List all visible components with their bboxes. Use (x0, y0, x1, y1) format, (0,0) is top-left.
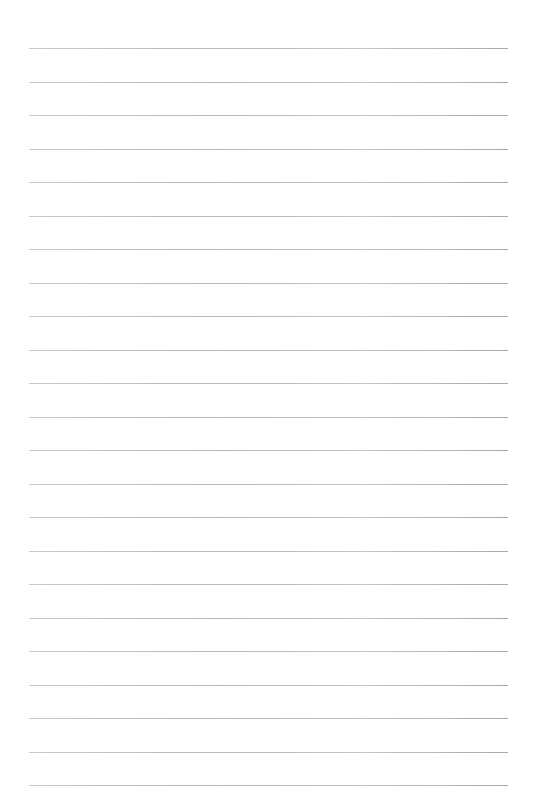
ruled-line (29, 584, 508, 585)
ruled-line (29, 216, 508, 217)
ruled-line (29, 383, 508, 384)
ruled-line (29, 182, 508, 183)
ruled-line (29, 752, 508, 753)
ruled-line (29, 417, 508, 418)
ruled-line (29, 350, 508, 351)
lined-paper-page (0, 0, 535, 802)
ruled-line (29, 651, 508, 652)
ruled-line (29, 484, 508, 485)
ruled-line (29, 517, 508, 518)
ruled-line (29, 82, 508, 83)
ruled-line (29, 450, 508, 451)
ruled-line (29, 115, 508, 116)
ruled-line (29, 249, 508, 250)
ruled-line (29, 149, 508, 150)
ruled-line (29, 685, 508, 686)
ruled-line (29, 316, 508, 317)
ruled-line (29, 785, 508, 786)
ruled-line (29, 718, 508, 719)
ruled-line (29, 283, 508, 284)
ruled-line (29, 48, 508, 49)
ruled-line (29, 551, 508, 552)
ruled-line (29, 618, 508, 619)
